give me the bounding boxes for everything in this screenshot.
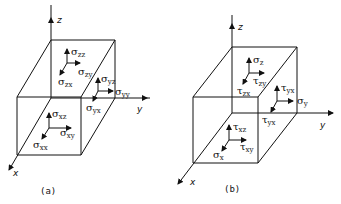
x-axis-label: x xyxy=(12,168,19,178)
svg-text:τxy: τxy xyxy=(240,141,253,154)
svg-text:σzz: σzz xyxy=(71,46,86,59)
stress-element-figure: z y x σzz σzy σzx σyz σyy σyx σxz xyxy=(0,0,341,204)
svg-text:τzx: τzx xyxy=(237,85,250,98)
svg-text:τzy: τzy xyxy=(253,75,266,88)
svg-text:σzx: σzx xyxy=(58,76,73,89)
z-axis-label: z xyxy=(237,22,243,32)
svg-text:σyy: σyy xyxy=(115,86,130,99)
svg-text:σyx: σyx xyxy=(86,102,101,115)
svg-text:σzy: σzy xyxy=(78,66,93,79)
stress-labels: σz τzy τzx τyx σy τyx τxz τxy σx xyxy=(213,54,308,162)
caption-b: (b) xyxy=(224,184,240,194)
svg-text:σxx: σxx xyxy=(33,139,48,152)
y-axis-label: y xyxy=(136,104,143,114)
svg-text:τxz: τxz xyxy=(233,121,246,134)
svg-text:σxy: σxy xyxy=(60,127,75,140)
panel-a: z y x σzz σzy σzx σyz σyy σyx σxz xyxy=(9,5,150,196)
x-axis-label: x xyxy=(189,177,196,187)
svg-text:σz: σz xyxy=(253,54,264,67)
svg-text:τyx: τyx xyxy=(262,114,276,127)
z-axis-label: z xyxy=(56,15,62,25)
svg-text:σy: σy xyxy=(297,95,308,108)
svg-text:σyz: σyz xyxy=(101,73,116,86)
svg-text:σxz: σxz xyxy=(52,108,67,121)
panel-b: z y x σz τzy τzx τyx σy τyx τxz τ xyxy=(178,15,333,194)
y-axis-label: y xyxy=(319,120,326,130)
svg-text:τyx: τyx xyxy=(281,82,295,95)
caption-a: (a) xyxy=(40,186,56,196)
